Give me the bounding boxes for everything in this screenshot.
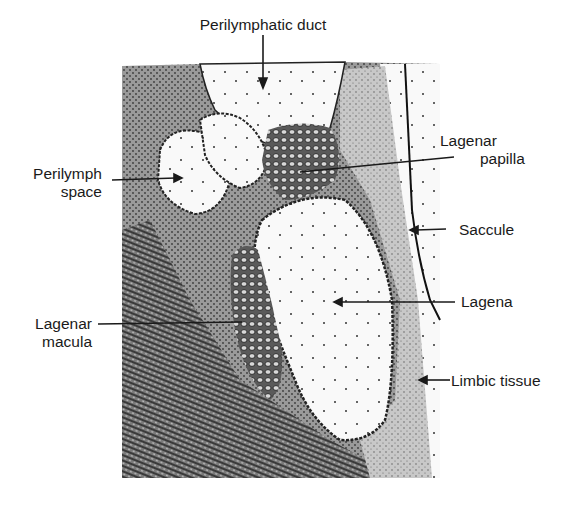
label-lagenar-papilla-line1: Lagenar (440, 132, 497, 149)
label-lagenar-macula-line1: Lagenar (12, 315, 92, 332)
label-perilymph-space-line1: Perilymph (12, 165, 102, 182)
lagena-illustration (0, 0, 576, 512)
label-perilymphatic-duct: Perilymphatic duct (178, 16, 348, 33)
label-lagenar-macula-line2: macula (12, 333, 92, 350)
label-limbic-tissue: Limbic tissue (451, 372, 541, 389)
label-perilymph-space-line2: space (12, 183, 102, 200)
label-saccule: Saccule (459, 221, 514, 238)
label-lagenar-papilla-line2: papilla (480, 150, 525, 167)
label-lagena: Lagena (461, 293, 513, 310)
diagram-canvas: Perilymphatic duct Perilymph space Lagen… (0, 0, 576, 512)
